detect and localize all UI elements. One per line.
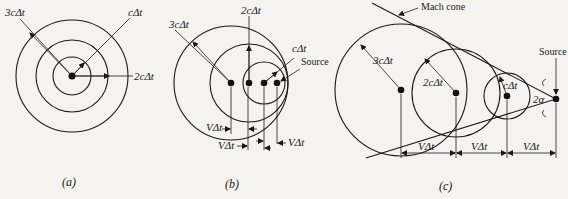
- label-source: Source: [301, 56, 329, 67]
- label-c-dt: cΔt: [128, 6, 143, 18]
- label-mach-cone: Mach cone: [421, 1, 466, 12]
- label-c-dt: cΔt: [292, 42, 307, 54]
- label-v-dt-3: VΔt: [288, 136, 305, 148]
- label-v-dt-1: VΔt: [418, 140, 435, 152]
- caption-b: (b): [225, 177, 239, 191]
- wavefront-diagram: 3cΔt cΔt 2cΔt (a) VΔt VΔt VΔt: [0, 0, 568, 199]
- panel-c: Mach cone Source 2α 3cΔt 2cΔt cΔt VΔt VΔ…: [335, 1, 567, 193]
- angle-arc-upper: [542, 79, 546, 86]
- label-3c-dt: 3cΔt: [4, 6, 26, 18]
- panel-a: 3cΔt cΔt 2cΔt (a): [4, 6, 155, 189]
- label-3c-dt: 3cΔt: [168, 18, 190, 30]
- caption-c: (c): [439, 179, 452, 193]
- panel-b: VΔt VΔt VΔt 3cΔt 2cΔt cΔt Source (b): [168, 4, 329, 191]
- label-v-dt-2: VΔt: [218, 139, 235, 151]
- radius-1-line: [72, 18, 130, 76]
- radius-3-line: [175, 30, 231, 83]
- label-2c-dt: 2cΔt: [241, 4, 262, 16]
- source-dot: [274, 80, 281, 87]
- source-dot: [553, 96, 560, 103]
- label-2c-dt: 2cΔt: [134, 70, 155, 82]
- label-c-dt: cΔt: [503, 79, 518, 91]
- label-2-alpha: 2α: [533, 93, 545, 105]
- label-v-dt-2: VΔt: [471, 140, 488, 152]
- label-2c-dt: 2cΔt: [423, 76, 444, 88]
- label-source: Source: [539, 46, 567, 57]
- caption-a: (a): [62, 175, 76, 189]
- angle-arc-lower: [542, 110, 546, 117]
- label-v-dt-1: VΔt: [206, 121, 223, 133]
- label-v-dt-3: VΔt: [523, 140, 540, 152]
- label-3c-dt: 3cΔt: [372, 54, 394, 66]
- mach-cone-upper: [372, 3, 556, 99]
